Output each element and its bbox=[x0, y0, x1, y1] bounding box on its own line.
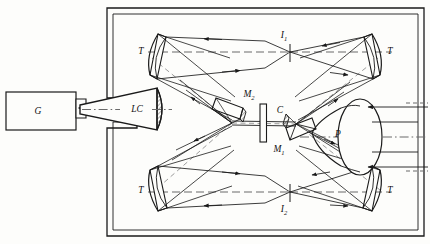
sample-cell bbox=[260, 104, 267, 142]
light-cone-label: LC bbox=[130, 104, 143, 114]
source-label: G bbox=[35, 106, 42, 116]
telescope-mirror-top-left-label: T bbox=[138, 46, 144, 56]
paraboloid-p-label: P bbox=[334, 129, 341, 139]
sample-cell-label: C bbox=[277, 105, 284, 115]
diagram-canvas: G LC T bbox=[0, 0, 430, 244]
telescope-mirror-bottom-left-label: T bbox=[138, 185, 144, 195]
optical-diagram-svg: G LC T bbox=[0, 0, 430, 244]
telescope-mirror-bottom-right-label: T bbox=[387, 185, 393, 195]
telescope-mirror-top-right-label: T bbox=[387, 46, 393, 56]
source-box bbox=[6, 92, 86, 130]
